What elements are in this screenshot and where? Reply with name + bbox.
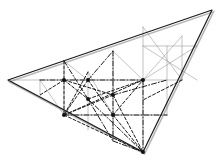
dash-12 (88, 80, 143, 99)
node-e (141, 78, 145, 82)
node-b (86, 78, 90, 82)
node-g (111, 93, 115, 97)
node-a (62, 78, 66, 82)
dashdot-6 (88, 99, 143, 152)
d6 (143, 27, 182, 80)
node-h (86, 97, 90, 101)
node-f (141, 150, 145, 154)
node-c (62, 113, 66, 117)
d7 (143, 36, 182, 80)
dash-3 (64, 80, 113, 95)
d1 (40, 80, 64, 115)
dash-4 (64, 80, 88, 99)
dashdot-1 (88, 51, 113, 80)
node-d (111, 113, 115, 117)
dash-13 (40, 80, 64, 95)
outer-triangle (8, 10, 212, 152)
dashed-construction-layer (40, 61, 182, 152)
d2 (64, 61, 88, 80)
dash-14 (113, 115, 143, 152)
geometry-diagram (0, 0, 217, 163)
dash-6 (88, 80, 113, 115)
figure-root (0, 0, 217, 163)
d8 (113, 51, 143, 80)
outer-triangle-layer (8, 10, 212, 152)
